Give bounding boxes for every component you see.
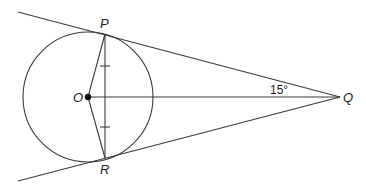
center-dot — [85, 94, 91, 100]
tangent-line-upper — [18, 12, 340, 97]
angle-label: 15° — [270, 83, 288, 97]
label-O: O — [73, 90, 83, 105]
label-Q: Q — [343, 90, 353, 105]
tangent-line-lower — [18, 97, 340, 181]
label-R: R — [100, 162, 109, 177]
label-P: P — [100, 16, 109, 31]
geometry-diagram: P R O Q 15° — [0, 0, 366, 184]
